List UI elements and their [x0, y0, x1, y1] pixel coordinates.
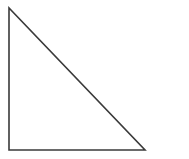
right-triangle-shape [9, 8, 145, 150]
triangle-figure [0, 0, 189, 159]
diagram-canvas [0, 0, 189, 159]
